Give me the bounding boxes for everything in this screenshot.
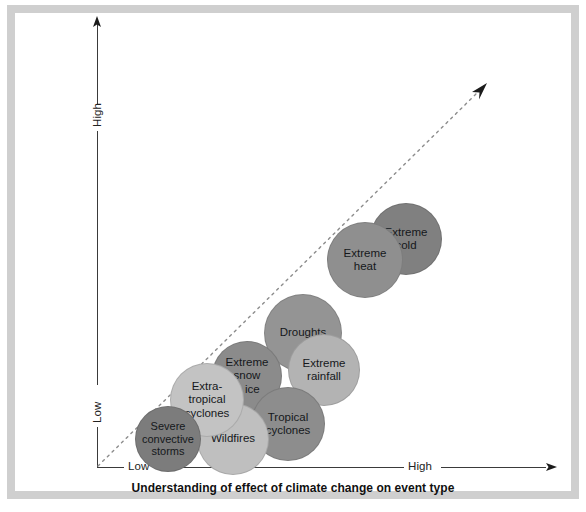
x-axis-segment-middle [162,467,404,468]
chart-page: High Low Confidence in capabilities for … [0,0,586,512]
bubble-label: Tropical cyclones [266,411,311,437]
bubble-label: Extra- tropical cyclones [185,380,230,420]
diagonal-arrowhead [472,83,487,100]
y-axis-segment-middle [97,131,98,385]
bubble-severe-convective-storms[interactable]: Severe convective storms [135,406,201,472]
x-axis-segment-left [97,467,124,468]
y-axis-segment-top [97,24,98,104]
bubble-label: Severe convective storms [142,420,194,458]
x-axis-segment-right [441,467,546,468]
bubble-label: Extreme heat [344,247,387,273]
x-axis-tick-high: High [408,460,432,472]
y-axis-tick-high: High [91,103,103,127]
y-axis-title: Confidence in capabilities for attributi… [32,0,66,24]
y-axis-segment-bottom [97,427,98,468]
bubble-label: Extreme rainfall [303,357,346,383]
y-axis-tick-low: Low [91,402,103,423]
bubble-extreme-heat[interactable]: Extreme heat [327,222,403,298]
x-axis-title: Understanding of effect of climate chang… [0,481,586,495]
x-axis-arrowhead [546,463,557,471]
bubble-chart-plot-area: High Low Confidence in capabilities for … [0,0,586,512]
